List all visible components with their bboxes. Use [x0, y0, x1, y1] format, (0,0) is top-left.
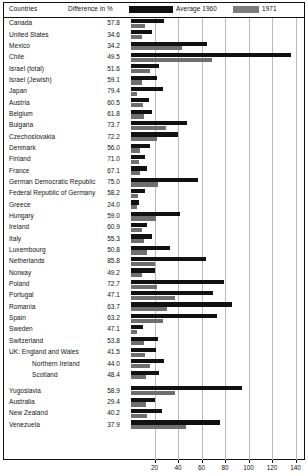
x-tick-120: [272, 460, 273, 463]
row-label: Switzerland: [9, 337, 43, 344]
x-tick-label-40: 40: [174, 464, 181, 471]
chart-row: Czechoslovakia72.2: [0, 131, 308, 142]
row-difference-value: 41.5: [92, 348, 120, 355]
bar-1971: [131, 307, 167, 311]
row-label: Luxembourg: [9, 246, 46, 253]
x-tick-label-60: 60: [198, 464, 205, 471]
chart-row: Spain63.2: [0, 313, 308, 324]
chart-row: New Zealand40.2: [0, 408, 308, 419]
bar-1971: [131, 126, 166, 130]
chart-row: Luxembourg50.8: [0, 245, 308, 256]
row-difference-value: 51.6: [92, 65, 120, 72]
bar-1960: [131, 166, 147, 170]
row-label: United States: [9, 31, 49, 38]
row-bars: [131, 302, 305, 312]
bar-1971: [131, 425, 186, 429]
row-bars: [131, 132, 305, 142]
row-difference-value: 67.1: [92, 167, 120, 174]
chart-row: Federal Republic of Germany58.2: [0, 188, 308, 199]
row-label: Belgium: [9, 110, 33, 117]
x-tick-label-100: 100: [243, 464, 254, 471]
row-label: France: [9, 167, 30, 174]
bar-1971: [131, 137, 157, 141]
chart-row: Sweden47.1: [0, 324, 308, 335]
row-bars: [131, 359, 305, 369]
x-axis: 20406080100120140: [131, 460, 305, 476]
bar-1960: [131, 189, 145, 193]
bar-1960: [131, 398, 155, 402]
row-bars: [131, 98, 305, 108]
chart-row: Canada57.8: [0, 18, 308, 29]
bar-1971: [131, 402, 146, 406]
bar-1960: [131, 200, 139, 204]
bar-1960: [131, 178, 198, 182]
row-difference-value: 47.1: [92, 325, 120, 332]
row-label: UK: England and Wales: [9, 348, 79, 355]
row-difference-value: 60.5: [92, 99, 120, 106]
row-difference-value: 56.0: [92, 144, 120, 151]
chart-row: United States34.6: [0, 29, 308, 40]
row-label: Canada: [9, 19, 32, 26]
bar-1971: [131, 148, 140, 152]
row-label: Japan: [9, 87, 27, 94]
bar-1971: [131, 80, 142, 84]
bar-1971: [131, 160, 139, 164]
chart-row: Australia29.4: [0, 397, 308, 408]
bar-1971: [131, 391, 175, 395]
row-label: Italy: [9, 235, 21, 242]
column-header-countries: Countries: [9, 5, 37, 12]
row-bars: [131, 397, 305, 407]
x-tick-label-140: 140: [290, 464, 301, 471]
bar-1960: [131, 268, 155, 272]
chart-row: Portugal47.1: [0, 290, 308, 301]
row-label: Venezuela: [9, 421, 40, 428]
row-difference-value: 48.4: [92, 371, 120, 378]
row-label: Ireland: [9, 223, 29, 230]
chart-row: Finland71.0: [0, 154, 308, 165]
row-bars: [131, 143, 305, 153]
bar-1960: [131, 223, 147, 227]
row-difference-value: 29.4: [92, 398, 120, 405]
bar-1971: [131, 273, 142, 277]
row-difference-value: 72.7: [92, 280, 120, 287]
bar-1960: [131, 121, 187, 125]
bar-1971: [131, 341, 144, 345]
chart-row: Poland72.7: [0, 279, 308, 290]
row-bars: [131, 223, 305, 233]
row-label: Finland: [9, 155, 31, 162]
row-bars: [131, 30, 305, 40]
row-label: Norway: [9, 269, 31, 276]
row-bars: [131, 325, 305, 335]
chart-row: UK: England and Wales41.5: [0, 347, 308, 358]
row-difference-value: 71.0: [92, 155, 120, 162]
bar-1971: [131, 171, 140, 175]
bar-1960: [131, 246, 170, 250]
row-difference-value: 72.2: [92, 133, 120, 140]
bar-1960: [131, 291, 213, 295]
bar-1960: [131, 302, 232, 306]
legend-label-1960: Average 1960: [176, 5, 217, 12]
bar-1971: [131, 353, 145, 357]
bar-1960: [131, 30, 152, 34]
bar-1960: [131, 87, 163, 91]
bar-1960: [131, 257, 206, 261]
row-bars: [131, 245, 305, 255]
bar-1960: [131, 420, 220, 424]
row-difference-value: 40.2: [92, 409, 120, 416]
bar-1971: [131, 92, 137, 96]
bar-1960: [131, 53, 291, 57]
row-bars: [131, 75, 305, 85]
x-tick-20: [155, 460, 156, 463]
row-label: Portugal: [9, 291, 34, 298]
chart-row: Ireland60.9: [0, 222, 308, 233]
bar-1960: [131, 155, 145, 159]
row-bars: [131, 336, 305, 346]
row-difference-value: 63.7: [92, 303, 120, 310]
row-difference-value: 47.1: [92, 291, 120, 298]
row-bars: [131, 166, 305, 176]
legend-label-1971: 1971: [262, 5, 277, 12]
row-label: German Democratic Republic: [9, 178, 96, 185]
chart-row: Mexico34.2: [0, 41, 308, 52]
chart-row: Israel (Jewish)59.1: [0, 75, 308, 86]
row-bars: [131, 291, 305, 301]
